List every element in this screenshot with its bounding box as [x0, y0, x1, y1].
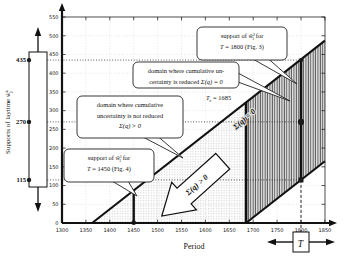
callout-support-1800-line2: T = 1800 (Fig. 3) — [220, 43, 264, 51]
y-tick-label-400: 400 — [49, 70, 59, 76]
y-tick-label-500: 500 — [49, 33, 59, 39]
callout-domain-reduced-line2: certainty is reduced Σ(q) = 0 — [149, 78, 223, 86]
x-tick-label-1700: 1700 — [247, 227, 260, 233]
x-tick-label-1350: 1350 — [80, 227, 93, 233]
y-tick-label-350: 350 — [49, 89, 59, 95]
T-slider-label: T — [298, 239, 304, 249]
left-bar-label-435: 435 — [16, 56, 27, 63]
x-tick-label-1500: 1500 — [151, 227, 164, 233]
x-tick-label-1650: 1650 — [223, 227, 236, 233]
x-axis-label: Period — [184, 242, 205, 251]
left-bar-down-arrowhead — [35, 203, 41, 212]
y-tick-label-0: 0 — [55, 220, 58, 226]
left-support-bar — [29, 52, 47, 187]
x-tick-label-1550: 1550 — [175, 227, 188, 233]
callout-domain-not-reduced-line2: uncertainty is not reduced — [97, 112, 164, 119]
callout-support-1450-tail — [112, 181, 137, 196]
tc-label: Tc = 1685 — [206, 94, 231, 103]
x-tick-label-1850: 1850 — [319, 227, 332, 233]
left-bar-dot-435 — [27, 58, 31, 62]
callout-domain-reduced-line1: domain where cumulative un- — [148, 67, 225, 74]
support-kernel-dot-T1800 — [298, 119, 304, 125]
left-bar-dot-115 — [27, 178, 31, 182]
y-tick-label-150: 150 — [49, 164, 59, 170]
y-axis-label: Supports of laytime ŵkj — [4, 89, 13, 154]
x-tick-label-1600: 1600 — [199, 227, 212, 233]
left-bar-label-270: 270 — [16, 118, 27, 125]
callout-support-1450-line2: T = 1450 (Fig. 4) — [87, 165, 131, 173]
callout-domain-not-reduced-line3: Σ(q) > 0 — [118, 122, 142, 130]
y-tick-label-250: 250 — [49, 126, 59, 132]
support-lower-marker-T1800 — [299, 177, 304, 182]
y-tick-label-450: 450 — [49, 51, 59, 57]
x-tick-label-1750: 1750 — [271, 227, 284, 233]
x-tick-label-1400: 1400 — [103, 227, 116, 233]
y-tick-label-300: 300 — [49, 107, 59, 113]
T-slider-right-arrowhead — [326, 239, 335, 245]
left-bar-label-115: 115 — [16, 176, 26, 183]
T-slider-left-arrowhead — [267, 239, 276, 245]
figure-canvas: 1300135014001450150015501600165017001750… — [0, 0, 350, 262]
y-tick-label-100: 100 — [49, 182, 59, 188]
left-bar-dot-270 — [27, 120, 31, 124]
left-bar-up-arrowhead — [35, 27, 41, 36]
y-tick-label-200: 200 — [49, 145, 59, 151]
x-tick-label-1300: 1300 — [56, 227, 69, 233]
x-tick-label-1450: 1450 — [127, 227, 140, 233]
support-upper-dot-T1800 — [299, 58, 303, 62]
x-axis-arrowhead — [329, 220, 337, 226]
y-tick-label-50: 50 — [52, 201, 58, 207]
y-axis-arrowhead — [59, 3, 65, 11]
laytime-support-figure: 1300135014001450150015501600165017001750… — [0, 0, 350, 262]
callout-domain-not-reduced-line1: domain where cumulative — [97, 101, 164, 108]
y-tick-label-550: 550 — [49, 14, 59, 20]
region-cumulative-uncertainty-reduced — [246, 41, 325, 223]
